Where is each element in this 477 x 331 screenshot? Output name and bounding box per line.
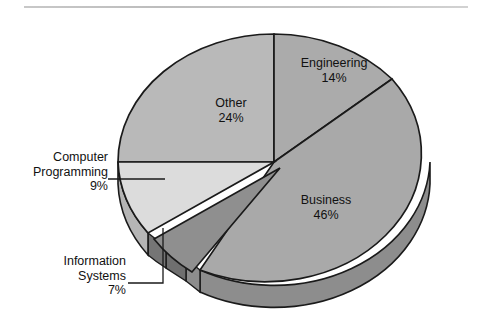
label-engineering: Engineering 14% [278, 56, 390, 85]
label-information-systems-line2: Systems [22, 269, 126, 284]
label-information-systems-pct: 7% [22, 283, 126, 298]
label-business-pct: 46% [272, 208, 380, 223]
pie-chart-figure: Engineering 14% Other 24% Business 46% C… [0, 0, 477, 331]
label-business: Business 46% [272, 193, 380, 222]
label-other: Other 24% [176, 96, 286, 125]
label-other-name: Other [215, 96, 246, 110]
label-engineering-name: Engineering [301, 56, 368, 70]
label-other-pct: 24% [176, 111, 286, 126]
label-computer-programming-line2: Programming [6, 165, 108, 180]
label-information-systems: Information Systems 7% [22, 254, 126, 298]
label-computer-programming-line1: Computer [53, 150, 108, 164]
label-information-systems-line1: Information [63, 254, 126, 268]
label-computer-programming: Computer Programming 9% [6, 150, 108, 194]
label-engineering-pct: 14% [278, 71, 390, 86]
label-computer-programming-pct: 9% [6, 179, 108, 194]
label-business-name: Business [301, 193, 352, 207]
